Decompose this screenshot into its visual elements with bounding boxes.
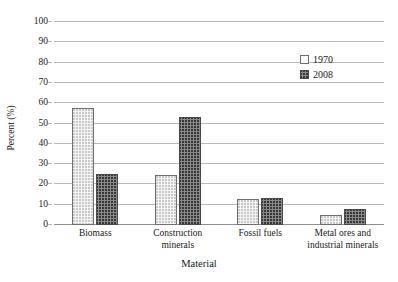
legend-item-1970: 1970	[300, 52, 333, 67]
bar-1970	[155, 175, 177, 225]
legend-label-1970: 1970	[313, 53, 333, 67]
y-tick-label: 10	[39, 199, 49, 209]
x-tick-label: Metal ores andindustrial minerals	[302, 228, 385, 251]
y-tick-label: 100	[34, 16, 48, 26]
bar-1970	[320, 215, 342, 225]
y-tick-label: 80	[39, 57, 49, 67]
bar-1970	[72, 108, 94, 225]
x-tick-label-line: Construction	[137, 228, 220, 240]
y-tick-mark	[48, 21, 52, 22]
y-tick-mark	[48, 82, 52, 83]
x-axis-title: Material	[0, 258, 398, 269]
x-axis-tick-labels: BiomassConstructionmineralsFossil fuelsM…	[54, 228, 384, 251]
y-tick-mark	[48, 183, 52, 184]
legend: 1970 2008	[300, 52, 333, 82]
y-tick-mark	[48, 224, 52, 225]
bar-2008	[261, 198, 283, 225]
y-tick-label: 40	[39, 138, 49, 148]
bar-group	[54, 22, 137, 225]
x-tick-label-line: Biomass	[54, 228, 137, 240]
y-tick-mark	[48, 143, 52, 144]
x-tick-label: Constructionminerals	[137, 228, 220, 251]
y-tick-label: 30	[39, 158, 49, 168]
y-tick-mark	[48, 163, 52, 164]
bar-groups	[54, 22, 384, 225]
legend-swatch-2008-icon	[300, 70, 309, 79]
bar-group	[137, 22, 220, 225]
legend-label-2008: 2008	[313, 68, 333, 82]
y-tick-label: 60	[39, 97, 49, 107]
y-tick-mark	[48, 123, 52, 124]
y-tick-label: 50	[39, 118, 49, 128]
legend-item-2008: 2008	[300, 67, 333, 82]
y-tick-label: 0	[43, 219, 48, 229]
bar-group	[219, 22, 302, 225]
x-tick-label-line: industrial minerals	[302, 240, 385, 252]
plot-area: 0102030405060708090100	[54, 22, 384, 225]
bar-2008	[179, 117, 201, 225]
x-tick-label: Fossil fuels	[219, 228, 302, 251]
bar-2008	[344, 209, 366, 225]
bar-1970	[237, 199, 259, 225]
y-tick-mark	[48, 41, 52, 42]
x-tick-label-line: minerals	[137, 240, 220, 252]
y-tick-label: 90	[39, 36, 49, 46]
y-tick-mark	[48, 204, 52, 205]
y-tick-mark	[48, 102, 52, 103]
y-tick-mark	[48, 62, 52, 63]
y-tick-label: 20	[39, 178, 49, 188]
x-tick-label-line: Fossil fuels	[219, 228, 302, 240]
x-tick-label-line: Metal ores and	[302, 228, 385, 240]
legend-swatch-1970-icon	[300, 55, 309, 64]
y-axis-title-text: Percent (%)	[6, 88, 16, 168]
y-tick-label: 70	[39, 77, 49, 87]
bar-chart-figure: Percent (%) 0102030405060708090100 Bioma…	[0, 0, 398, 282]
x-tick-label: Biomass	[54, 228, 137, 251]
bar-2008	[96, 174, 118, 225]
